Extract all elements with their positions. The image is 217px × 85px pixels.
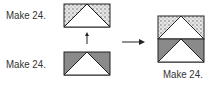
right-arrow-icon	[122, 39, 145, 45]
up-arrow-icon	[85, 32, 89, 44]
patterned-flying-geese-unit	[64, 4, 110, 27]
combined-block	[158, 16, 204, 62]
gray-flying-geese-unit	[64, 52, 110, 75]
diagram-canvas	[0, 0, 217, 85]
